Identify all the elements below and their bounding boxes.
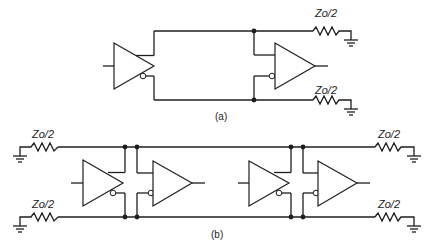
caption-b: (b) bbox=[211, 229, 223, 240]
svg-text:Zo/2: Zo/2 bbox=[314, 84, 337, 96]
circuit-diagram: Zo/2 Zo/2 (a) Zo/2 Zo/2 bbox=[0, 0, 436, 244]
driver-b1 bbox=[71, 145, 127, 220]
resistor-b-left-top: Zo/2 bbox=[13, 128, 58, 162]
part-a: Zo/2 Zo/2 (a) bbox=[103, 7, 358, 122]
svg-text:Zo/2: Zo/2 bbox=[377, 128, 400, 140]
resistor-b-right-bottom: Zo/2 bbox=[375, 198, 421, 232]
receiver-b2 bbox=[301, 145, 370, 220]
svg-text:Zo/2: Zo/2 bbox=[314, 7, 337, 19]
driver-b2 bbox=[238, 145, 293, 220]
svg-text:Zo/2: Zo/2 bbox=[377, 198, 400, 210]
svg-text:Zo/2: Zo/2 bbox=[31, 198, 54, 210]
part-b: Zo/2 Zo/2 bbox=[13, 128, 421, 240]
resistor-a-top: Zo/2 bbox=[313, 7, 358, 46]
svg-text:Zo/2: Zo/2 bbox=[31, 128, 54, 140]
driver-a bbox=[103, 31, 154, 100]
resistor-b-right-top: Zo/2 bbox=[375, 128, 421, 162]
receiver-b1 bbox=[135, 145, 205, 220]
caption-a: (a) bbox=[215, 111, 227, 122]
resistor-b-left-bottom: Zo/2 bbox=[13, 198, 58, 232]
resistor-a-bottom: Zo/2 bbox=[313, 84, 358, 115]
